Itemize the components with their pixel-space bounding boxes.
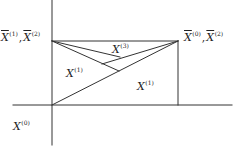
diagram-canvas: X(1),X(2) X(0),X(2) X(3) X(1) X(1) X(0) bbox=[0, 0, 233, 151]
label-top-left-sep: , bbox=[19, 31, 23, 44]
label-top-right: X(0),X(2) bbox=[184, 31, 223, 43]
diagram-lines bbox=[0, 0, 233, 151]
lower-ray-left bbox=[52, 41, 119, 71]
label-region-right-base: X bbox=[137, 81, 145, 92]
label-top-right-b-sup: (2) bbox=[215, 30, 224, 37]
label-bottom-left-sup: (0) bbox=[21, 119, 30, 126]
label-bottom-left: X(0) bbox=[13, 120, 30, 132]
label-bottom-left-base: X bbox=[13, 121, 21, 132]
label-region-top-base: X bbox=[112, 44, 120, 55]
label-top-right-sep: , bbox=[202, 31, 206, 44]
label-top-left-a-sup: (1) bbox=[9, 30, 18, 37]
label-top-left: X(1),X(2) bbox=[1, 31, 40, 43]
label-region-top-sup: (3) bbox=[120, 42, 129, 49]
label-top-right-a-sup: (0) bbox=[192, 30, 201, 37]
label-region-right: X(1) bbox=[137, 80, 154, 92]
label-region-top: X(3) bbox=[112, 43, 129, 55]
label-region-right-sup: (1) bbox=[145, 79, 154, 86]
label-top-left-a-base: X bbox=[1, 32, 9, 43]
label-region-left: X(1) bbox=[66, 67, 83, 79]
label-top-right-b-base: X bbox=[206, 32, 214, 43]
label-top-left-b-base: X bbox=[23, 32, 31, 43]
label-region-left-sup: (1) bbox=[74, 66, 83, 73]
label-region-left-base: X bbox=[66, 68, 74, 79]
label-top-left-b-sup: (2) bbox=[32, 30, 41, 37]
upper-ray-left bbox=[52, 41, 120, 57]
label-top-right-a-base: X bbox=[184, 32, 192, 43]
